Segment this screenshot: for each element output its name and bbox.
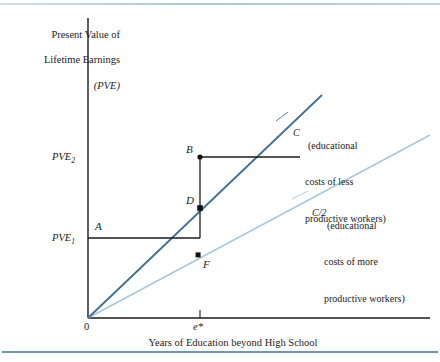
legend-c2-desc-line2: costs of more	[312, 256, 432, 268]
point-label-a: A	[95, 220, 102, 233]
y-tick-label-pve2: PVE2	[52, 151, 75, 165]
point-label-b: B	[186, 143, 193, 156]
point-marker-d	[197, 205, 203, 211]
y-axis-title: Present Value of Lifetime Earnings (PVE)	[4, 16, 120, 106]
x-tick-label-zero: 0	[84, 321, 89, 334]
legend-c-desc-line1: (educational	[308, 140, 357, 151]
legend-leader-c	[276, 112, 288, 121]
point-label-f: F	[203, 258, 210, 271]
legend-c-symbol: C	[293, 127, 300, 138]
y-tick-label-pve1: PVE1	[52, 232, 75, 246]
x-tick-label-estar: e*	[193, 321, 203, 334]
y-axis-title-line3: (PVE)	[94, 80, 120, 91]
x-axis-title: Years of Education beyond High School	[88, 337, 378, 350]
point-marker-f	[196, 252, 201, 257]
legend-c2-desc-line3: productive workers)	[312, 293, 432, 305]
cost-line-c	[88, 95, 322, 318]
point-label-d: D	[186, 194, 194, 207]
legend-cost-line-c-half: C/2 (educational costs of more productiv…	[312, 183, 432, 329]
legend-c2-symbol: C/2	[312, 207, 326, 218]
figure-container: Present Value of Lifetime Earnings (PVE)…	[0, 0, 440, 362]
legend-c2-desc-line1: (educational	[327, 220, 376, 231]
y-axis-title-line1: Present Value of	[51, 29, 120, 40]
point-marker-b	[197, 154, 202, 159]
y-axis-title-line2: Lifetime Earnings	[44, 54, 120, 65]
